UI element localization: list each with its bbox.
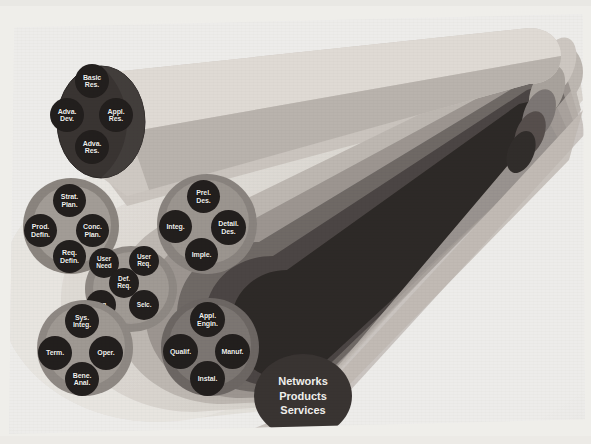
research-cluster[interactable]: BasicRes. Appl.Res. Adva.Res. Adva.Dev.: [47, 56, 139, 172]
node-sys-integ[interactable]: Sys.Integ.: [65, 304, 99, 338]
node-conc-plan[interactable]: Conc.Plan.: [76, 214, 109, 247]
outcome-networks: Networks: [278, 374, 328, 389]
node-manuf[interactable]: Manuf.: [215, 334, 250, 369]
node-selc[interactable]: Selc.: [129, 290, 159, 320]
node-instal[interactable]: Instal.: [190, 361, 225, 396]
node-req-defin[interactable]: Req.Defin.: [53, 240, 86, 273]
node-appl-engin[interactable]: Appl.Engin.: [190, 302, 225, 337]
production-cluster[interactable]: Appl.Engin. Manuf. Instal. Qualif.: [161, 298, 259, 396]
operations-cluster[interactable]: Sys.Integ. Oper. Bene.Anal. Term.: [37, 300, 133, 396]
node-term[interactable]: Term.: [38, 336, 72, 370]
node-integ[interactable]: Integ.: [159, 210, 192, 243]
node-prod-defin[interactable]: Prod.Defin.: [24, 214, 57, 247]
node-basic-res[interactable]: BasicRes.: [75, 64, 109, 98]
illustration-plate: BasicRes. Appl.Res. Adva.Res. Adva.Dev. …: [9, 14, 585, 434]
outcomes-endcap[interactable]: Networks Products Services: [254, 354, 352, 434]
node-imple[interactable]: Imple.: [185, 238, 218, 271]
node-bene-anal[interactable]: Bene.Anal.: [65, 362, 99, 396]
outcome-products: Products: [279, 389, 327, 404]
node-qualif[interactable]: Qualif.: [163, 334, 198, 369]
node-strat-plan[interactable]: Strat.Plan.: [53, 184, 86, 217]
node-adva-dev[interactable]: Adva.Dev.: [50, 98, 84, 132]
node-oper[interactable]: Oper.: [89, 336, 123, 370]
outcome-services: Services: [280, 403, 325, 418]
node-appl-res[interactable]: Appl.Res.: [99, 98, 133, 132]
node-detail-des[interactable]: Detail.Des.: [211, 210, 246, 245]
figure-canvas: BasicRes. Appl.Res. Adva.Res. Adva.Dev. …: [0, 0, 591, 444]
node-adva-res[interactable]: Adva.Res.: [75, 130, 109, 164]
node-prel-des[interactable]: Prel.Des.: [187, 180, 220, 213]
